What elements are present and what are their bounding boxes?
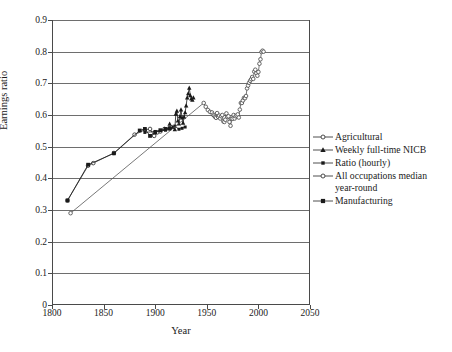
series-line	[67, 128, 169, 200]
open-circle-icon	[313, 170, 335, 182]
data-point-open-circle	[229, 124, 233, 128]
legend-item[interactable]: Manufacturing	[313, 195, 452, 207]
legend-item[interactable]: Ratio (hourly)	[313, 157, 452, 169]
data-point-filled-square	[168, 126, 172, 130]
data-point-filled-square	[138, 129, 142, 133]
chart-legend: AgriculturalWeekly full-time NICBRatio (…	[313, 131, 452, 208]
series-4	[66, 126, 172, 202]
data-point-filled-triangle	[175, 109, 179, 113]
data-point-filled-triangle	[184, 103, 188, 107]
filled-triangle-icon	[313, 144, 335, 156]
data-point-open-circle	[220, 113, 224, 117]
data-point-filled-square	[66, 199, 70, 203]
data-point-filled-triangle	[179, 107, 183, 111]
data-point-open-circle	[257, 70, 261, 74]
legend-item[interactable]: Agricultural	[313, 131, 452, 143]
data-point-filled-square-small	[177, 128, 180, 131]
data-point-filled-triangle	[183, 110, 187, 114]
series-0	[66, 127, 172, 203]
data-point-filled-triangle	[185, 95, 189, 99]
data-point-open-circle-cross	[152, 134, 156, 138]
filled-square-icon	[313, 195, 335, 207]
data-point-filled-triangle	[167, 122, 171, 126]
data-point-open-circle	[244, 94, 248, 98]
data-point-open-circle	[202, 101, 206, 105]
legend-item[interactable]: Weekly full-time NICB	[313, 144, 452, 156]
data-point-filled-square	[164, 127, 168, 131]
data-point-open-circle	[259, 57, 263, 61]
data-point-filled-square	[112, 151, 116, 155]
data-point-filled-square-small	[184, 126, 187, 129]
filled-square-small-icon	[313, 157, 335, 169]
data-point-filled-square	[153, 131, 157, 135]
data-point-open-circle	[251, 77, 255, 81]
data-point-filled-square	[158, 128, 162, 132]
data-point-open-circle	[256, 74, 260, 78]
series-1	[167, 85, 195, 131]
data-point-filled-square	[148, 134, 152, 138]
data-point-filled-triangle	[187, 85, 191, 89]
legend-item-label: Manufacturing	[335, 195, 393, 207]
data-point-open-circle	[258, 62, 262, 66]
legend-item-label: Ratio (hourly)	[335, 157, 390, 169]
legend-item-label: Weekly full-time NICB	[335, 144, 426, 156]
series-line	[71, 51, 264, 213]
data-point-open-circle	[237, 116, 241, 120]
chart-container: Earnings ratio Year 00.10.20.30.40.50.60…	[0, 0, 452, 352]
data-point-open-circle	[238, 108, 242, 112]
series-line	[67, 128, 169, 200]
series-3	[69, 49, 266, 215]
data-point-filled-square-small	[181, 127, 184, 130]
data-point-open-circle-cross	[148, 127, 152, 131]
legend-item-label: All occupations median year-round	[335, 170, 427, 193]
data-point-filled-square-small	[143, 131, 146, 134]
data-point-open-circle	[69, 211, 73, 215]
legend-item-label: Agricultural	[335, 131, 382, 143]
data-point-open-circle	[262, 50, 266, 54]
open-circle-cross-icon	[313, 131, 335, 143]
legend-item[interactable]: All occupations median year-round	[313, 170, 452, 193]
data-point-filled-square	[86, 163, 90, 167]
data-point-filled-square	[143, 127, 147, 131]
